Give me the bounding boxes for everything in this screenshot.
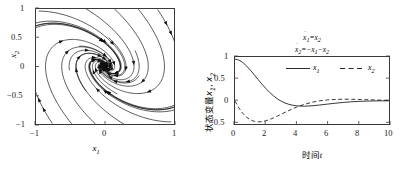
- time-xtick-4: 4: [293, 128, 297, 138]
- time-xtick-6: 6: [324, 128, 328, 138]
- time-xtick-0: 0: [231, 128, 235, 138]
- time-x-axis-label: 时间t: [302, 148, 322, 160]
- streamline-arrow-icon: [146, 89, 151, 94]
- streamline-arrow-icon: [85, 48, 90, 52]
- phase-streamlines: [36, 9, 174, 124]
- phase-xtick-0: 0: [102, 128, 106, 138]
- system-equations: ̇x1=x2 ̇x2=−x1−x2: [295, 33, 329, 57]
- streamline-arrow-icon: [59, 39, 64, 44]
- time-xtick-8: 8: [355, 128, 359, 138]
- panel-time-response: ̇x1=x2 ̇x2=−x1−x2 1 0.5 0 −0.5 0 2 4 6 8…: [200, 0, 413, 171]
- time-legend: x1 x2: [284, 62, 388, 75]
- time-xtick-2: 2: [262, 128, 266, 138]
- phase-ytick-neg1: −1: [16, 119, 25, 129]
- streamline-arrow-icon: [112, 61, 117, 66]
- phase-ytick-0: 0: [20, 61, 24, 71]
- phase-x-axis-label: x1: [92, 143, 99, 155]
- time-y-axis-label: 状态变量x1, x2: [202, 73, 216, 132]
- phase-ytick-1: 1: [20, 3, 24, 13]
- phase-ytick-neg05: −0.5: [7, 90, 22, 100]
- equation-line-1: ̇x1=x2: [295, 33, 329, 45]
- phase-plot-frame: [35, 8, 175, 125]
- legend-label-x1: x1: [313, 63, 320, 74]
- streamline-arrow-icon: [169, 31, 174, 36]
- time-ytick-1: 1: [224, 51, 228, 61]
- streamline: [98, 9, 148, 86]
- streamline: [36, 91, 52, 123]
- phase-ytick-05: 0.5: [11, 32, 22, 42]
- phase-xtick-1: 1: [172, 128, 176, 138]
- phase-y-axis-label: x2: [8, 51, 20, 58]
- legend-label-x2: x2: [368, 63, 375, 74]
- streamline-arrow-icon: [37, 97, 42, 102]
- panel-phase-portrait: 1 0.5 0 −0.5 −1 −1 0 1 x2 x1: [0, 0, 200, 171]
- time-ytick-0: 0: [224, 95, 228, 105]
- streamline-arrow-icon: [41, 107, 46, 112]
- streamline-arrow-icon: [164, 21, 169, 26]
- series-x2-line: [235, 99, 389, 122]
- time-xtick-10: 10: [384, 128, 393, 138]
- streamline: [158, 10, 174, 42]
- phase-xtick-neg1: −1: [30, 128, 39, 138]
- figure-root: 1 0.5 0 −0.5 −1 −1 0 1 x2 x1: [0, 0, 413, 171]
